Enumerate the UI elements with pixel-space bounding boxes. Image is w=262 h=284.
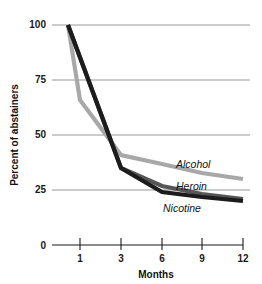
y-tick-label-100: 100 [29,19,46,30]
series-label-nicotine: Nicotine [163,202,201,214]
x-tick-label-6: 6 [159,253,165,264]
series-label-heroin: Heroin [176,180,207,192]
x-axis-title: Months [138,269,174,280]
x-tick-label-9: 9 [199,253,205,264]
y-tick-label-0: 0 [40,240,46,251]
chart-background [0,0,262,284]
y-tick-label-75: 75 [35,74,47,85]
y-tick-label-25: 25 [35,184,47,195]
x-tick-label-12: 12 [237,253,249,264]
x-tick-label-3: 3 [118,253,124,264]
y-tick-label-50: 50 [35,129,47,140]
x-tick-label-1: 1 [77,253,83,264]
abstainers-line-chart: 100 75 50 25 0 Percent of abstainers Alc… [0,0,262,284]
y-axis-title: Percent of abstainers [9,84,20,186]
series-label-alcohol: Alcohol [175,158,211,170]
chart-container: 100 75 50 25 0 Percent of abstainers Alc… [0,0,262,284]
